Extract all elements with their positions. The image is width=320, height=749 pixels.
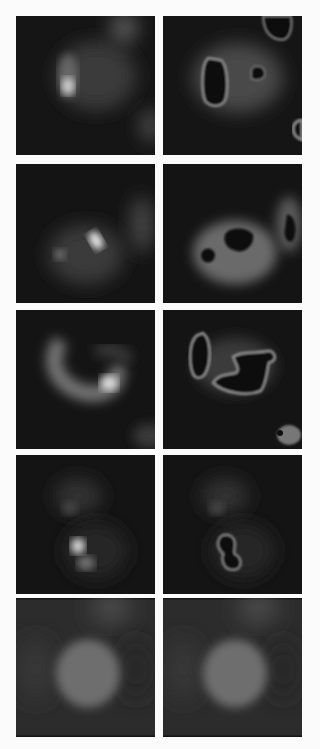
panel-r4-raw bbox=[16, 455, 155, 594]
panel-r2-raw bbox=[16, 164, 155, 303]
panel-r4-processed bbox=[163, 455, 302, 594]
raw-image-1 bbox=[16, 16, 155, 155]
panel-r1-raw bbox=[16, 16, 155, 155]
processed-image-4 bbox=[163, 455, 302, 594]
panel-r5-processed bbox=[163, 598, 302, 737]
panel-r2-processed bbox=[163, 164, 302, 303]
processed-image-1 bbox=[163, 16, 302, 155]
processed-image-3 bbox=[163, 310, 302, 449]
panel-r1-processed bbox=[163, 16, 302, 155]
raw-image-5 bbox=[16, 598, 155, 737]
panel-r3-processed bbox=[163, 310, 302, 449]
processed-image-2 bbox=[163, 164, 302, 303]
panel-r5-raw bbox=[16, 598, 155, 737]
raw-image-4 bbox=[16, 455, 155, 594]
processed-image-5 bbox=[163, 598, 302, 737]
raw-image-3 bbox=[16, 310, 155, 449]
panel-r3-raw bbox=[16, 310, 155, 449]
raw-image-2 bbox=[16, 164, 155, 303]
